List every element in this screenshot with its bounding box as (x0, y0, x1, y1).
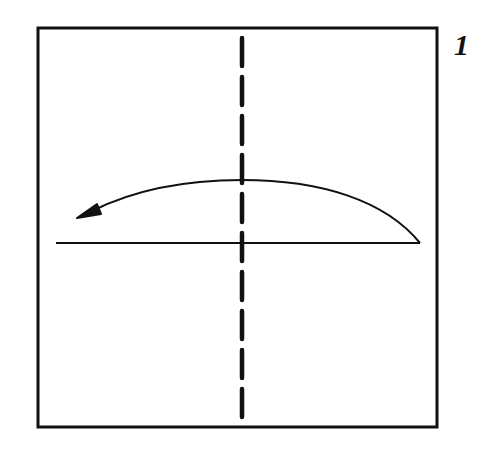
step-number: 1 (454, 30, 469, 60)
fold-diagram-canvas (0, 0, 491, 451)
background (0, 0, 491, 451)
